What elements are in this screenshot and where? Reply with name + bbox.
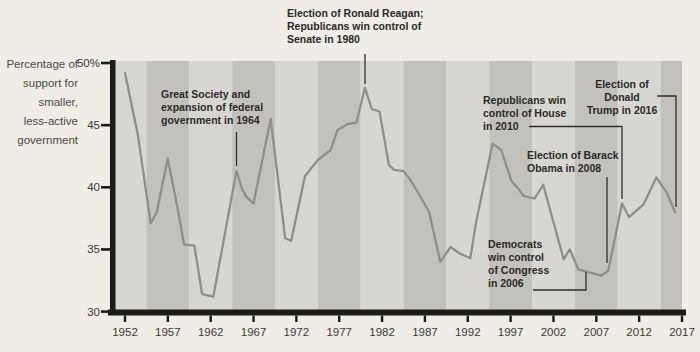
x-tick bbox=[509, 316, 511, 323]
x-tick bbox=[381, 316, 383, 323]
y-tick-label: 35 bbox=[87, 243, 100, 255]
x-tick bbox=[124, 316, 126, 323]
y-axis-title: Percentage of support for smaller, less-… bbox=[0, 55, 78, 150]
x-tick-label: 1977 bbox=[326, 326, 352, 338]
background-band bbox=[361, 61, 404, 312]
y-tick-label: 50% bbox=[77, 57, 100, 69]
x-tick bbox=[295, 316, 297, 323]
y-tick bbox=[101, 62, 110, 65]
x-tick-label: 1987 bbox=[412, 326, 438, 338]
y-tick bbox=[101, 248, 110, 251]
y-tick bbox=[101, 310, 110, 313]
annotation-democrats-congress-2006: Democrats win control of Congress in 200… bbox=[488, 238, 549, 290]
x-tick bbox=[424, 316, 426, 323]
x-tick-label: 1952 bbox=[112, 326, 138, 338]
x-tick-label: 2012 bbox=[626, 326, 652, 338]
annotation-trump-2016: Election of Donald Trump in 2016 bbox=[576, 78, 668, 117]
y-tick bbox=[101, 186, 110, 189]
smaller-government-support-chart: 50%4540353019521957196219671972197719821… bbox=[0, 0, 700, 352]
annotation-obama-2008: Election of Barack Obama in 2008 bbox=[527, 149, 619, 175]
x-tick bbox=[252, 316, 254, 323]
background-band bbox=[275, 61, 318, 312]
x-tick-label: 1972 bbox=[284, 326, 310, 338]
background-band bbox=[404, 61, 447, 312]
x-tick-label: 1997 bbox=[498, 326, 524, 338]
x-tick-label: 1962 bbox=[198, 326, 224, 338]
annotation-great-society: Great Society and expansion of federal g… bbox=[161, 88, 263, 127]
x-tick bbox=[467, 316, 469, 323]
y-tick-label: 30 bbox=[87, 306, 100, 318]
x-tick-label: 1967 bbox=[241, 326, 267, 338]
x-tick bbox=[595, 316, 597, 323]
x-axis-line bbox=[108, 310, 686, 316]
x-tick-label: 1992 bbox=[455, 326, 481, 338]
x-tick-label: 2002 bbox=[541, 326, 567, 338]
x-tick-label: 2007 bbox=[584, 326, 610, 338]
annotation-reagan-1980: Election of Ronald Reagan; Republicans w… bbox=[287, 7, 424, 46]
y-tick-label: 45 bbox=[87, 119, 100, 131]
annotation-republicans-house-2010: Republicans win control of House in 2010 bbox=[483, 94, 566, 133]
x-tick bbox=[681, 316, 683, 323]
x-tick bbox=[167, 316, 169, 323]
x-tick bbox=[209, 316, 211, 323]
background-band bbox=[318, 61, 361, 312]
x-tick-label: 2017 bbox=[669, 326, 695, 338]
y-tick bbox=[101, 124, 110, 127]
x-tick bbox=[338, 316, 340, 323]
chart-canvas: 50%4540353019521957196219671972197719821… bbox=[0, 0, 700, 352]
x-tick bbox=[638, 316, 640, 323]
x-tick-label: 1957 bbox=[155, 326, 181, 338]
y-axis-line bbox=[110, 60, 116, 315]
x-tick bbox=[552, 316, 554, 323]
y-tick-label: 40 bbox=[87, 181, 100, 193]
x-tick-label: 1982 bbox=[369, 326, 395, 338]
